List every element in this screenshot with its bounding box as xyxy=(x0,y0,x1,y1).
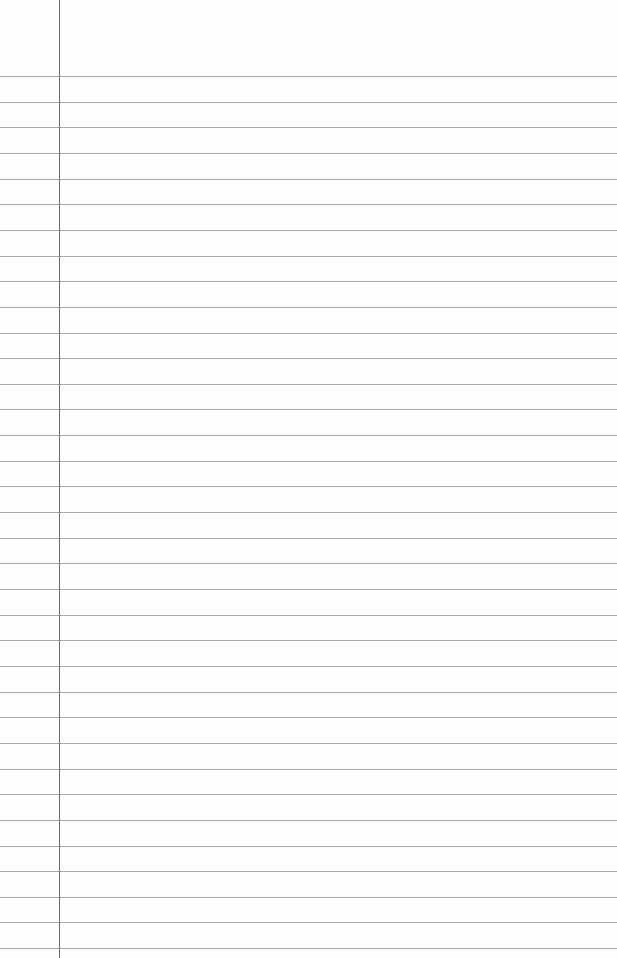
ruled-line xyxy=(0,127,617,128)
ruled-line xyxy=(0,76,617,77)
ruled-line xyxy=(0,589,617,590)
ruled-line xyxy=(0,769,617,770)
margin-line xyxy=(59,0,60,958)
ruled-line xyxy=(0,153,617,154)
ruled-line xyxy=(0,692,617,693)
ruled-line xyxy=(0,230,617,231)
ruled-line xyxy=(0,204,617,205)
ruled-line xyxy=(0,615,617,616)
ruled-line xyxy=(0,820,617,821)
ruled-line xyxy=(0,948,617,949)
ruled-line xyxy=(0,179,617,180)
ruled-line xyxy=(0,281,617,282)
ruled-line xyxy=(0,794,617,795)
ruled-line xyxy=(0,717,617,718)
ruled-line xyxy=(0,897,617,898)
ruled-line xyxy=(0,666,617,667)
ruled-line xyxy=(0,256,617,257)
ruled-line xyxy=(0,486,617,487)
ruled-line xyxy=(0,102,617,103)
ruled-line xyxy=(0,435,617,436)
lined-paper xyxy=(0,0,617,958)
ruled-line xyxy=(0,461,617,462)
ruled-line xyxy=(0,538,617,539)
ruled-line xyxy=(0,743,617,744)
ruled-line xyxy=(0,333,617,334)
ruled-line xyxy=(0,307,617,308)
ruled-line xyxy=(0,563,617,564)
ruled-line xyxy=(0,922,617,923)
ruled-line xyxy=(0,384,617,385)
ruled-line xyxy=(0,640,617,641)
ruled-line xyxy=(0,846,617,847)
ruled-line xyxy=(0,512,617,513)
ruled-line xyxy=(0,409,617,410)
ruled-line xyxy=(0,871,617,872)
ruled-line xyxy=(0,358,617,359)
